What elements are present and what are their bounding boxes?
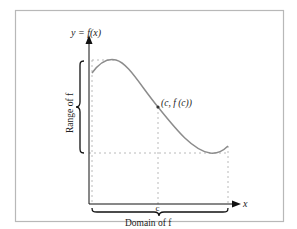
range-brace-icon (76, 61, 84, 153)
guide-lines (89, 60, 228, 204)
frame-border (16, 11, 284, 222)
x-axis-arrow-icon (232, 201, 241, 208)
x-axis-label: x (242, 198, 248, 209)
y-axis-label: y = f(x) (70, 27, 102, 39)
c-tick-label: c (156, 203, 160, 213)
range-label: Range of f (65, 92, 75, 133)
point-label: (c, f (c)) (161, 98, 192, 109)
domain-brace-icon (92, 208, 228, 216)
domain-label: Domain of f (125, 218, 172, 228)
point-c-fc (156, 105, 159, 108)
function-curve (92, 60, 228, 154)
function-diagram: y = f(x) x (c, f (c)) c Domain of f Rang… (0, 0, 297, 229)
